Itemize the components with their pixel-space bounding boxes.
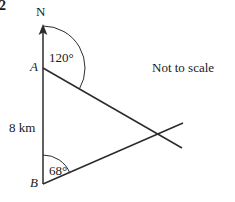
ray-from-a xyxy=(43,68,182,148)
angle-label-a: 120° xyxy=(49,51,74,64)
segment-length-label-ab: 8 km xyxy=(9,121,35,134)
vertex-label-b: B xyxy=(30,176,38,189)
vertex-label-a: A xyxy=(30,60,38,73)
bearing-diagram xyxy=(0,0,235,202)
angle-label-b: 68° xyxy=(49,164,67,177)
north-label: N xyxy=(36,5,45,18)
question-figure: 2 N A B 120° 68° 8 km Not to scale xyxy=(0,0,235,202)
not-to-scale-note: Not to scale xyxy=(152,61,214,74)
question-number: 2 xyxy=(0,0,6,13)
